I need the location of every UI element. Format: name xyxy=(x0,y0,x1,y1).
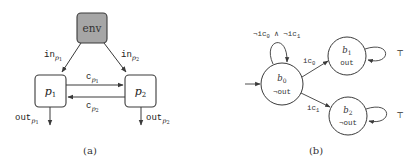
edge-label-b0-b1: ic0 xyxy=(303,57,315,67)
b0-output: ¬out xyxy=(273,88,291,96)
b2-circle xyxy=(329,97,367,135)
b1-output: out xyxy=(340,59,354,67)
state-b2: b2 ¬out xyxy=(329,97,367,135)
b0-self-loop xyxy=(270,43,287,64)
caption-b: (b) xyxy=(309,145,323,156)
edge-label-b0-b2: ic1 xyxy=(307,104,320,114)
b1-circle xyxy=(328,37,366,75)
edge-in-p1 xyxy=(62,43,81,72)
edge-label-in-p2: inp2 xyxy=(121,50,139,62)
b0-self-loop-label: ¬ic0 ∧ ¬ic1 xyxy=(253,30,301,40)
figure-b: b0 ¬out ¬ic0 ∧ ¬ic1 b1 out ⊤ b2 ¬out ⊤ i… xyxy=(245,30,404,156)
edge-label-out-p2: outp2 xyxy=(146,113,170,125)
process-node-p2: p2 xyxy=(125,75,156,107)
state-b0: b0 ¬out xyxy=(261,63,303,105)
diagram-svg: env p1 p2 inp1 inp2 cp1 cp2 outp1 outp2 xyxy=(0,0,420,168)
caption-a: (a) xyxy=(83,145,97,156)
edge-label-c-p1: cp1 xyxy=(86,72,99,84)
b2-self-loop xyxy=(366,107,387,122)
b2-output: ¬out xyxy=(339,119,357,127)
figure-a: env p1 p2 inp1 inp2 cp1 cp2 outp1 outp2 xyxy=(15,13,170,156)
figure: env p1 p2 inp1 inp2 cp1 cp2 outp1 outp2 xyxy=(0,0,420,168)
edge-label-in-p1: inp1 xyxy=(44,50,62,62)
b1-self-loop-label: ⊤ xyxy=(396,49,404,58)
b1-self-loop xyxy=(365,47,386,61)
env-node: env xyxy=(77,13,107,43)
process-node-p1: p1 xyxy=(35,75,66,107)
edge-label-c-p2: cp2 xyxy=(86,101,99,113)
b2-self-loop-label: ⊤ xyxy=(396,111,404,120)
env-label: env xyxy=(83,22,102,34)
edge-label-out-p1: outp1 xyxy=(15,113,39,125)
b0-circle xyxy=(261,63,303,105)
state-b1: b1 out xyxy=(328,37,366,75)
